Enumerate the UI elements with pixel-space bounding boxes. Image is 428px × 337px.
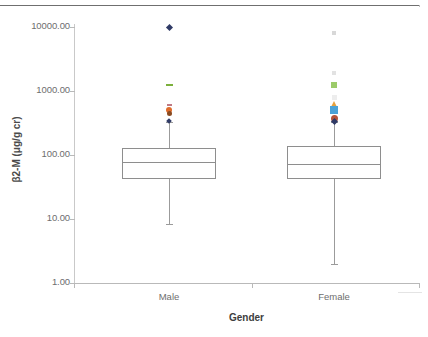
figure-bottom-rule bbox=[398, 292, 422, 293]
y-tick-label: 10.00 bbox=[8, 212, 70, 223]
lower-whisker-cap-female bbox=[331, 264, 338, 265]
x-category-label-male: Male bbox=[109, 291, 229, 302]
x-category-label-female: Female bbox=[274, 291, 394, 302]
boxplot-figure: 10000.001000.00100.0010.001.00 β2-M (μg/… bbox=[0, 0, 428, 337]
outlier-point bbox=[167, 104, 172, 106]
lower-whisker-cap-male bbox=[166, 224, 173, 225]
box-iqr-female bbox=[287, 146, 381, 179]
outlier-point bbox=[332, 95, 337, 100]
x-axis-title: Gender bbox=[74, 312, 419, 323]
outlier-point bbox=[167, 111, 172, 116]
outlier-point bbox=[330, 106, 338, 114]
median-line-male bbox=[122, 162, 216, 163]
lower-whisker-female bbox=[334, 179, 335, 264]
lower-whisker-male bbox=[169, 179, 170, 223]
x-tick-mark bbox=[252, 283, 253, 288]
median-line-female bbox=[287, 164, 381, 165]
y-tick-label: 10000.00 bbox=[8, 20, 70, 31]
x-tick-mark bbox=[74, 283, 75, 288]
y-axis-title: β2-M (μg/g cr) bbox=[11, 90, 22, 210]
box-iqr-male bbox=[122, 148, 216, 179]
figure-right-rule bbox=[419, 5, 420, 7]
outlier-point bbox=[332, 71, 336, 75]
y-tick-label: 1.00 bbox=[8, 276, 70, 287]
x-tick-mark bbox=[419, 283, 420, 288]
outlier-point bbox=[166, 84, 173, 86]
outlier-point bbox=[331, 82, 337, 88]
outlier-point bbox=[332, 31, 336, 35]
upper-whisker-male bbox=[169, 122, 170, 148]
